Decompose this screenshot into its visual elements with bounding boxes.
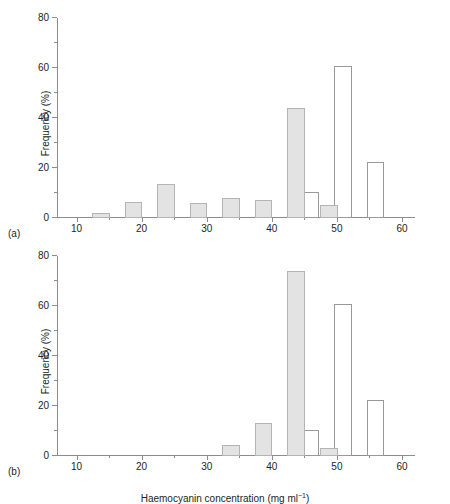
bar-a-filled-3 <box>190 203 208 218</box>
x-minor-tick-b-15 <box>109 456 110 458</box>
x-tick-label-b-20: 20 <box>136 462 147 472</box>
y-minor-tick-b-10 <box>54 430 57 431</box>
x-minor-tick-a-15 <box>109 218 110 220</box>
x-tick-b-20 <box>142 456 143 460</box>
x-minor-tick-b-55 <box>369 456 370 458</box>
x-minor-tick-b-25 <box>174 456 175 458</box>
x-tick-label-a-30: 30 <box>201 224 212 234</box>
y-tick-b-80 <box>52 255 57 256</box>
x-tick-label-a-20: 20 <box>136 224 147 234</box>
y-minor-tick-b-30 <box>54 380 57 381</box>
y-tick-label-a-80: 80 <box>38 13 49 23</box>
y-tick-label-a-40: 40 <box>38 113 49 123</box>
bar-b-filled-1 <box>255 423 273 457</box>
panel-a: Frequency (%) 020406080102030405060 (a) <box>0 0 450 248</box>
bar-b-filled-3 <box>320 448 338 456</box>
panel-b: Frequency (%) 020406080102030405060 (b) … <box>0 248 450 500</box>
y-tick-a-60 <box>52 67 57 68</box>
x-minor-tick-a-25 <box>174 218 175 220</box>
y-minor-tick-a-10 <box>54 192 57 193</box>
y-tick-label-b-80: 80 <box>38 251 49 261</box>
y-tick-b-20 <box>52 405 57 406</box>
x-tick-a-10 <box>77 218 78 222</box>
x-minor-tick-b-35 <box>239 456 240 458</box>
bar-a-filled-4 <box>222 198 240 219</box>
x-tick-b-60 <box>402 456 403 460</box>
y-tick-a-0 <box>52 217 57 218</box>
y-axis-line-a <box>57 18 58 218</box>
x-tick-label-b-60: 60 <box>396 462 407 472</box>
y-tick-b-40 <box>52 355 57 356</box>
y-tick-label-b-60: 60 <box>38 301 49 311</box>
x-tick-label-b-50: 50 <box>331 462 342 472</box>
y-tick-a-40 <box>52 117 57 118</box>
bar-a-filled-2 <box>157 184 175 218</box>
x-tick-label-a-50: 50 <box>331 224 342 234</box>
y-minor-tick-a-30 <box>54 142 57 143</box>
y-minor-tick-a-50 <box>54 92 57 93</box>
x-tick-label-a-10: 10 <box>71 224 82 234</box>
x-tick-label-b-30: 30 <box>201 462 212 472</box>
x-tick-label-b-10: 10 <box>71 462 82 472</box>
bar-a-filled-1 <box>125 202 143 218</box>
bar-a-open-2 <box>367 162 385 218</box>
y-axis-title-a: Frequency (%) <box>40 91 51 157</box>
y-axis-title-b: Frequency (%) <box>40 329 51 395</box>
y-tick-label-b-0: 0 <box>43 451 49 461</box>
x-tick-label-a-40: 40 <box>266 224 277 234</box>
y-tick-b-60 <box>52 305 57 306</box>
x-minor-tick-a-55 <box>369 218 370 220</box>
x-axis-title: Haemocyanin concentration (mg ml−1) <box>0 492 450 504</box>
plot-area-a: Frequency (%) 020406080102030405060 <box>57 18 415 218</box>
bar-a-filled-6 <box>287 108 305 218</box>
y-minor-tick-b-70 <box>54 280 57 281</box>
panel-label-b: (b) <box>8 466 20 477</box>
x-tick-a-30 <box>207 218 208 222</box>
y-tick-a-20 <box>52 167 57 168</box>
plot-area-b: Frequency (%) 020406080102030405060 <box>57 256 415 456</box>
x-tick-b-30 <box>207 456 208 460</box>
x-tick-b-40 <box>272 456 273 460</box>
bar-a-filled-0 <box>92 213 110 218</box>
y-tick-label-a-20: 20 <box>38 163 49 173</box>
bar-b-open-1 <box>334 304 352 457</box>
bar-a-open-1 <box>334 66 352 219</box>
x-tick-b-50 <box>337 456 338 460</box>
x-tick-label-b-40: 40 <box>266 462 277 472</box>
x-tick-label-a-60: 60 <box>396 224 407 234</box>
y-minor-tick-b-50 <box>54 330 57 331</box>
x-minor-tick-b-45 <box>304 456 305 458</box>
x-minor-tick-a-35 <box>239 218 240 220</box>
y-tick-a-80 <box>52 17 57 18</box>
x-tick-a-50 <box>337 218 338 222</box>
y-tick-b-0 <box>52 455 57 456</box>
x-tick-a-60 <box>402 218 403 222</box>
y-axis-line-b <box>57 256 58 456</box>
x-tick-b-10 <box>77 456 78 460</box>
bar-b-open-2 <box>367 400 385 456</box>
y-tick-label-a-0: 0 <box>43 213 49 223</box>
x-tick-a-20 <box>142 218 143 222</box>
panel-label-a: (a) <box>8 228 20 239</box>
bar-b-filled-2 <box>287 271 305 456</box>
x-minor-tick-a-45 <box>304 218 305 220</box>
y-tick-label-a-60: 60 <box>38 63 49 73</box>
y-minor-tick-a-70 <box>54 42 57 43</box>
bar-a-filled-7 <box>320 205 338 219</box>
y-tick-label-b-20: 20 <box>38 401 49 411</box>
bar-b-filled-0 <box>222 445 240 456</box>
x-tick-a-40 <box>272 218 273 222</box>
bar-a-filled-5 <box>255 200 273 219</box>
y-tick-label-b-40: 40 <box>38 351 49 361</box>
